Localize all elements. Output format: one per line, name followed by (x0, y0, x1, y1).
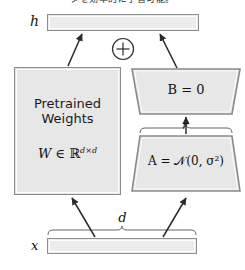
pretrained-weights-formula: W ∈ ℝd×d (14, 146, 121, 161)
element-of-symbol: ∈ (51, 146, 69, 161)
output-activation-bar (47, 14, 199, 31)
b-matrix-label: B = 0 (132, 82, 240, 97)
input-dim-brace (48, 226, 196, 235)
lora-diagram-canvas: タを効率的に学習可能。 (0, 0, 245, 270)
pretrained-weights-box (14, 67, 121, 195)
input-activation-bar (47, 238, 197, 254)
dim-superscript: d×d (80, 146, 97, 155)
rank-label: r (125, 119, 245, 132)
input-dim-label: d (0, 210, 245, 225)
w-symbol: W (38, 146, 51, 161)
pretrained-weights-label: Pretrained Weights (14, 96, 121, 126)
reals-symbol: ℝ (69, 146, 80, 161)
input-label: x (31, 238, 38, 253)
arrow-w-to-h (68, 34, 82, 66)
output-label: h (30, 13, 39, 29)
a-matrix-label: A = 𝒩(0, σ²) (132, 154, 240, 168)
arrow-b-to-h (160, 34, 177, 68)
